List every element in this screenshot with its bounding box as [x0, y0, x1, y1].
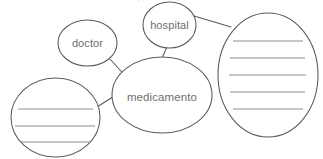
doctor-label: doctor — [72, 37, 103, 49]
blank-left-outline — [11, 78, 100, 157]
edge-hospital-medicamento — [162, 47, 167, 58]
hospital-label: hospital — [150, 19, 189, 31]
concept-map-svg: medicamento doctor hospital — [0, 0, 323, 159]
node-medicamento[interactable]: medicamento — [112, 57, 212, 133]
node-blank-left[interactable] — [11, 78, 100, 157]
node-doctor[interactable]: doctor — [58, 20, 117, 66]
node-blank-right[interactable] — [218, 13, 318, 137]
edge-hospital-blankright — [194, 16, 231, 27]
concept-map-canvas: mapa conceptual medicamento — [0, 0, 323, 159]
medicamento-label: medicamento — [127, 91, 197, 103]
node-hospital[interactable]: hospital — [143, 2, 196, 48]
